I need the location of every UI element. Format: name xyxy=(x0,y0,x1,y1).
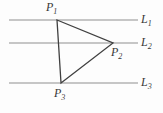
line-label-l1-letter: L xyxy=(141,12,148,26)
diagram-canvas: P1 P2 P3 L1 L2 L3 xyxy=(0,0,163,113)
line-label-l1-subscript: 1 xyxy=(148,19,152,28)
point-label-p3: P3 xyxy=(54,86,65,100)
line-label-l2-letter: L xyxy=(141,35,148,49)
diagram-svg xyxy=(0,0,163,113)
triangle-p1-p2-p3 xyxy=(57,20,113,83)
point-label-p2-subscript: 2 xyxy=(118,52,122,61)
point-label-p3-subscript: 3 xyxy=(61,93,65,102)
line-label-l3: L3 xyxy=(141,75,152,89)
point-label-p1-subscript: 1 xyxy=(53,7,57,16)
line-label-l3-subscript: 3 xyxy=(148,82,152,91)
line-label-l2-subscript: 2 xyxy=(148,42,152,51)
line-label-l3-letter: L xyxy=(141,75,148,89)
point-label-p1: P1 xyxy=(46,0,57,14)
line-label-l1: L1 xyxy=(141,12,152,26)
line-label-l2: L2 xyxy=(141,35,152,49)
point-label-p2: P2 xyxy=(111,45,122,59)
